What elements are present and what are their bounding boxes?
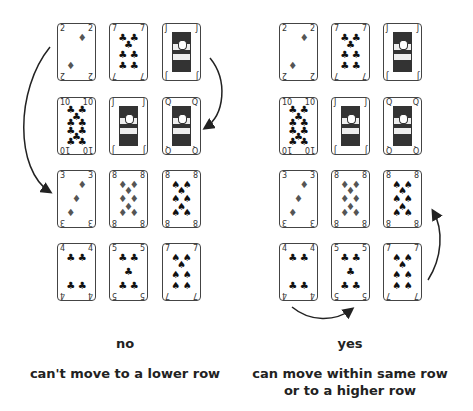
suit-pip-icon: ♣ [340,50,349,60]
card-rank-label: 7 [334,71,339,79]
card-rank-label: 5 [334,291,339,299]
card-rank-label: 2 [310,71,315,79]
suit-pip-icon: ♣ [124,267,133,277]
card-rank-label: 8 [140,172,145,180]
card-rank-label: 8 [165,172,170,180]
card-rank-label: 8 [386,172,391,180]
card-rank-label: Q [192,99,198,107]
card-rank-label: 2 [60,71,65,79]
card-rank-label: 2 [88,71,93,79]
card-rank-label: Q [413,145,419,153]
suit-pip-icon: ♠ [404,281,413,291]
suit-pip-icon: ♠ [404,270,413,280]
suit-pip-icon: ♦ [300,180,309,190]
card-rank-label: 2 [282,25,287,33]
card-rank-label: 8 [193,218,198,226]
playing-card-7-left[interactable]: 7777♣♣♣♣♣♣♣ [109,23,148,81]
suit-pip-icon: ♦ [66,208,75,218]
playing-card-4-right[interactable]: 4444♣♣♣♣ [279,243,318,301]
card-rank-label: J [386,25,388,33]
playing-card-7-right[interactable]: 7777♣♣♣♣♣♣♣ [331,23,370,81]
playing-card-8-left[interactable]: 8888♠♠♠♠♠♠♠♠ [162,170,201,228]
suit-pip-icon: ♦ [288,208,297,218]
card-rank-label: J [334,145,336,153]
playing-card-8-right[interactable]: 8888♦♦♦♦♦♦♦♦ [331,170,370,228]
card-rank-label: 8 [414,172,419,180]
card-rank-label: Q [165,145,171,153]
suit-pip-icon: ♠ [183,270,192,280]
playing-card-Q-right[interactable]: QQQQ [383,97,422,155]
suit-pip-icon: ♠ [392,208,401,218]
card-rank-label: J [417,25,419,33]
playing-card-2-right[interactable]: 2222♦♦ [279,23,318,81]
card-rank-label: Q [165,99,171,107]
playing-card-7-left[interactable]: 7777♠♠♠♠♠♠♠ [162,243,201,301]
card-rank-label: 8 [140,218,145,226]
playing-card-J-right[interactable]: JJJJ [331,97,370,155]
card-rank-label: 7 [165,291,170,299]
card-rank-label: Q [413,99,419,107]
playing-card-3-left[interactable]: 3333♦♦♦ [57,170,96,228]
card-rank-label: 2 [282,71,287,79]
card-rank-label: 7 [386,291,391,299]
card-rank-label: Q [386,99,392,107]
card-rank-label: 7 [386,245,391,253]
card-rank-label: 8 [334,218,339,226]
playing-card-J-left[interactable]: JJJJ [109,97,148,155]
suit-pip-icon: ♣ [118,61,127,71]
suit-pip-icon: ♣ [66,281,75,291]
arrow-right-within-row [292,307,352,319]
card-rank-label: 7 [193,291,198,299]
playing-card-8-right[interactable]: 8888♠♠♠♠♠♠♠♠ [383,170,422,228]
playing-card-8-left[interactable]: 8888♦♦♦♦♦♦♦♦ [109,170,148,228]
card-rank-label: 7 [193,245,198,253]
card-rank-label: 7 [112,25,117,33]
suit-pip-icon: ♣ [78,253,87,263]
playing-card-5-left[interactable]: 5555♣♣♣♣♣ [109,243,148,301]
card-rank-label: J [365,145,367,153]
suit-pip-icon: ♦ [340,208,349,218]
card-rank-label: 4 [310,245,315,253]
playing-card-10-left[interactable]: 10101010♣♣♣♣♣♣♣♣♣♣ [57,97,96,155]
playing-card-2-left[interactable]: 2222♦♦ [57,23,96,81]
card-rank-label: 7 [414,291,419,299]
card-rank-label: J [112,99,114,107]
suit-pip-icon: ♦ [78,33,87,43]
card-rank-label: J [112,145,114,153]
suit-pip-icon: ♣ [352,253,361,263]
card-rank-label: 2 [88,25,93,33]
suit-pip-icon: ♣ [130,281,139,291]
playing-card-J-left[interactable]: JJJJ [162,23,201,81]
card-rank-label: 5 [362,245,367,253]
card-rank-label: 8 [193,172,198,180]
playing-card-4-left[interactable]: 4444♣♣♣♣ [57,243,96,301]
suit-pip-icon: ♣ [288,253,297,263]
card-rank-label: 5 [362,291,367,299]
suit-pip-icon: ♠ [183,208,192,218]
playing-card-5-right[interactable]: 5555♣♣♣♣♣ [331,243,370,301]
card-rank-label: 4 [88,245,93,253]
card-rank-label: 7 [112,71,117,79]
suit-pip-icon: ♠ [392,270,401,280]
card-rank-label: 2 [60,25,65,33]
card-rank-label: 8 [112,218,117,226]
card-rank-label: J [165,71,167,79]
suit-pip-icon: ♦ [294,194,303,204]
playing-card-Q-left[interactable]: QQQQ [162,97,201,155]
suit-pip-icon: ♦ [66,61,75,71]
playing-card-J-right[interactable]: JJJJ [383,23,422,81]
card-rank-label: 7 [165,245,170,253]
suit-pip-icon: ♣ [118,50,127,60]
playing-card-7-right[interactable]: 7777♠♠♠♠♠♠♠ [383,243,422,301]
card-rank-label: J [386,71,388,79]
card-rank-label: 5 [334,245,339,253]
card-rank-label: J [196,71,198,79]
playing-card-3-right[interactable]: 3333♦♦♦ [279,170,318,228]
playing-card-10-right[interactable]: 10101010♣♣♣♣♣♣♣♣♣♣ [279,97,318,155]
arrow-left-invalid-down [24,47,50,192]
card-rank-label: 8 [112,172,117,180]
suit-pip-icon: ♣ [118,281,127,291]
card-rank-label: 3 [60,172,65,180]
suit-pip-icon: ♦ [78,180,87,190]
card-rank-label: 4 [60,245,65,253]
